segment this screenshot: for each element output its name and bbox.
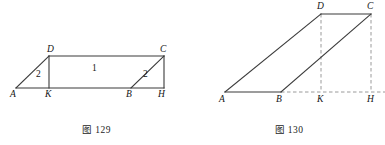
figure-board: A K B H D C 2 1 2 图 129: [0, 0, 385, 145]
region-label-middle-rectangle: 1: [92, 64, 97, 74]
label-H-fig129: H: [158, 90, 165, 100]
label-K-fig129: K: [45, 90, 51, 100]
label-B-fig130: B: [276, 95, 282, 105]
figure-129-drawing: [0, 0, 193, 118]
label-B-fig129: B: [126, 90, 132, 100]
region-label-left-triangle: 2: [36, 70, 41, 80]
label-C-fig129: C: [160, 45, 166, 55]
label-A-fig130: A: [219, 95, 225, 105]
label-A-fig129: A: [10, 90, 16, 100]
figure-129-panel: A K B H D C 2 1 2 图 129: [0, 0, 193, 145]
label-K-fig130: K: [317, 95, 323, 105]
segment-AD: [225, 14, 321, 92]
label-D-fig129: D: [47, 45, 54, 55]
caption-figure-130: 图 130: [193, 122, 385, 136]
segment-AD: [16, 56, 49, 88]
region-label-right-triangle: 2: [143, 70, 148, 80]
label-C-fig130: C: [367, 2, 373, 12]
caption-figure-129: 图 129: [0, 122, 193, 136]
figure-130-panel: A B K H D C 图 130: [193, 0, 385, 145]
label-H-fig130: H: [367, 95, 374, 105]
segment-BC: [281, 14, 371, 92]
label-D-fig130: D: [317, 2, 324, 12]
